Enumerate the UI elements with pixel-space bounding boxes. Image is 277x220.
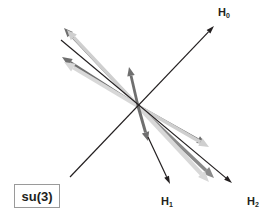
- axis-label-h0-text: H: [218, 6, 226, 18]
- axis-label-h1: H1: [161, 196, 173, 207]
- algebra-tag-label: su(3): [21, 189, 52, 204]
- axis-label-h2-text: H: [247, 195, 255, 207]
- axis-line-h1: [148, 137, 170, 184]
- algebra-tag-box: su(3): [14, 184, 60, 208]
- axis-line-h0: [70, 26, 214, 177]
- su3-root-diagram: H0 H1 H2 su(3): [0, 0, 277, 220]
- axis-label-h0: H0: [218, 7, 230, 18]
- axis-label-h2: H2: [247, 196, 259, 207]
- axis-label-h1-text: H: [161, 195, 169, 207]
- axis-label-h0-subscript: 0: [226, 12, 230, 19]
- root-down-right-pale: [138, 106, 209, 182]
- axis-line-h2: [61, 40, 232, 183]
- axis-label-h2-subscript: 2: [255, 201, 259, 208]
- axis-label-h1-subscript: 1: [169, 201, 173, 208]
